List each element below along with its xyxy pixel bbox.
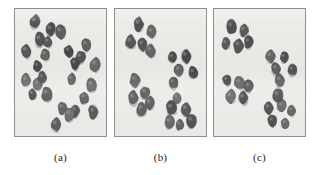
panel-b-caption: (b) — [114, 145, 207, 169]
dot-highlight — [168, 104, 172, 108]
data-point — [273, 89, 283, 102]
dot-highlight — [235, 42, 239, 46]
dot-highlight — [83, 41, 87, 45]
dot-highlight — [246, 38, 249, 42]
figure-container: (a) (b) (c) — [0, 0, 321, 175]
dot-highlight — [81, 94, 84, 98]
dot-highlight — [289, 66, 292, 69]
dot-highlight — [147, 99, 151, 103]
dot-highlight — [174, 94, 177, 97]
data-point — [227, 19, 237, 33]
dot-highlight — [138, 105, 142, 109]
panel-b — [114, 8, 207, 137]
dot-highlight — [92, 61, 96, 65]
data-point — [186, 114, 196, 128]
dot-highlight — [72, 60, 75, 64]
dot-highlight — [227, 92, 231, 96]
dot-highlight — [59, 104, 62, 108]
dot-highlight — [170, 79, 173, 83]
dot-highlight — [267, 52, 271, 56]
dot-highlight — [57, 28, 61, 32]
dot-highlight — [223, 40, 226, 43]
dot-highlight — [224, 77, 227, 80]
data-point — [42, 87, 52, 101]
dot-highlight — [273, 65, 276, 69]
data-point — [87, 78, 97, 91]
panel-c-scatter — [214, 9, 305, 136]
dot-highlight — [35, 63, 38, 66]
dot-highlight — [236, 78, 240, 82]
dot-highlight — [266, 104, 269, 108]
panel-c-caption: (c) — [213, 145, 306, 169]
data-point — [41, 49, 50, 60]
dot-highlight — [282, 120, 285, 123]
panel-b-frame — [114, 8, 207, 137]
dot-highlight — [170, 54, 173, 57]
dot-highlight — [35, 80, 38, 84]
dot-highlight — [53, 121, 57, 125]
dot-highlight — [176, 66, 179, 70]
dot-highlight — [77, 53, 81, 57]
panel-c-frame — [213, 8, 306, 137]
dot-highlight — [47, 25, 51, 29]
panels-row — [0, 0, 321, 145]
dot-highlight — [127, 38, 131, 42]
dot-highlight — [188, 117, 192, 121]
dot-highlight — [142, 89, 146, 93]
dot-highlight — [289, 107, 292, 110]
data-point — [189, 66, 198, 78]
dot-highlight — [132, 76, 136, 80]
dot-highlight — [183, 52, 187, 56]
dot-highlight — [139, 41, 142, 45]
dot-highlight — [167, 118, 171, 122]
panel-a-caption: (a) — [14, 145, 107, 169]
dot-highlight — [246, 83, 249, 87]
dot-highlight — [274, 91, 278, 95]
data-point — [169, 52, 177, 63]
data-point — [174, 64, 183, 76]
panel-b-scatter — [115, 9, 206, 136]
dot-highlight — [276, 76, 280, 80]
data-point — [234, 76, 244, 88]
dot-highlight — [240, 94, 244, 98]
data-point — [165, 116, 174, 129]
dot-highlight — [69, 75, 72, 78]
data-point — [176, 119, 183, 129]
dot-highlight — [136, 20, 140, 24]
dot-highlight — [177, 121, 180, 124]
dot-highlight — [88, 81, 92, 85]
dot-highlight — [90, 108, 94, 112]
panel-a-frame — [14, 8, 107, 137]
dot-highlight — [40, 74, 43, 77]
dot-highlight — [130, 94, 134, 98]
dot-highlight — [44, 90, 48, 94]
dot-highlight — [269, 117, 272, 120]
dot-highlight — [190, 69, 193, 73]
dot-highlight — [32, 18, 36, 22]
dot-highlight — [241, 27, 244, 31]
dot-highlight — [66, 110, 70, 114]
data-point — [288, 65, 297, 75]
dot-highlight — [228, 23, 232, 27]
dot-highlight — [42, 51, 45, 54]
dot-highlight — [147, 47, 151, 51]
dot-highlight — [148, 28, 151, 32]
data-point — [22, 73, 31, 86]
dot-highlight — [45, 38, 48, 41]
data-point — [169, 77, 177, 87]
dot-highlight — [66, 47, 69, 51]
dot-highlight — [23, 47, 27, 51]
dot-highlight — [36, 35, 40, 39]
dot-highlight — [183, 105, 187, 109]
panel-a-scatter — [15, 9, 106, 136]
dot-highlight — [30, 91, 33, 94]
data-point — [244, 80, 254, 92]
panel-a — [14, 8, 107, 137]
dot-highlight — [281, 54, 284, 57]
panel-c — [213, 8, 306, 137]
dot-highlight — [23, 76, 27, 80]
